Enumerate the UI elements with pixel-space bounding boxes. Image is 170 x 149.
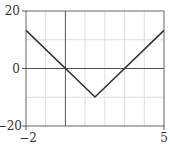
x-tick-5: 5 (160, 131, 168, 145)
chart: 20 0 −20 −2 5 (0, 0, 170, 149)
y-tick-20: 20 (5, 4, 20, 18)
x-tick-neg2: −2 (19, 131, 37, 145)
series-line (26, 30, 164, 97)
y-tick-0: 0 (12, 62, 20, 76)
